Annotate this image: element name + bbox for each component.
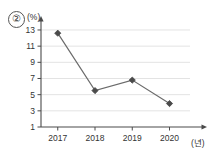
y-tick-label: 5 [30,90,35,100]
data-point-marker [166,100,172,106]
line-chart-plot: 135791113 2017201820192020 [0,0,217,157]
x-axis-arrow [202,124,208,129]
x-tick-label: 2020 [160,133,179,143]
y-tick-label: 7 [30,73,35,83]
y-tick-label: 3 [30,106,35,116]
chart-figure: ② (%) (년) 135791113 2017201820192020 [0,0,217,157]
series-line [58,33,170,103]
x-tick-label: 2019 [123,133,142,143]
x-axis-tick-labels: 2017201820192020 [48,133,179,143]
data-point-marker [92,88,98,94]
y-tick-label: 1 [30,122,35,132]
x-tick-label: 2017 [48,133,67,143]
y-tick-label: 9 [30,57,35,67]
data-point-marker [55,30,61,36]
y-tick-label: 11 [26,41,35,51]
y-axis-arrow [38,16,43,22]
x-tick-label: 2018 [86,133,105,143]
y-tick-label: 13 [26,25,36,35]
axes-lines [38,16,207,130]
data-series [55,30,173,107]
data-point-marker [129,77,135,83]
y-axis-tick-labels: 135791113 [26,25,36,132]
